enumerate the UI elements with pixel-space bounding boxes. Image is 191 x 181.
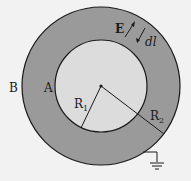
- diagram-canvas: B A R1 R2 E dl: [0, 0, 191, 181]
- label-e: E: [115, 22, 124, 36]
- label-b: B: [9, 81, 18, 95]
- label-dl: dl: [145, 35, 157, 49]
- label-a: A: [43, 81, 53, 95]
- ground-icon: [143, 152, 164, 169]
- label-r2-sub: 2: [159, 116, 164, 125]
- label-r1-sub: 1: [83, 104, 88, 113]
